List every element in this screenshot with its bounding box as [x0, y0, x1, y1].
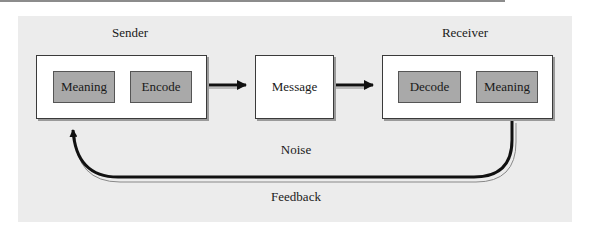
arrow-message-to-receiver	[336, 85, 373, 88]
arrow-sender-to-message	[209, 85, 246, 88]
arrows-layer	[0, 0, 592, 235]
feedback-arrow	[73, 121, 516, 182]
